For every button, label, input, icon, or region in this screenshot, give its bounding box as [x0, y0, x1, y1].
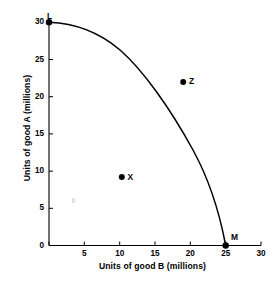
x-tick-label-20: 20	[181, 249, 199, 259]
point-marker-Z	[180, 79, 186, 85]
x-axis-title: Units of good B (millions)	[40, 261, 265, 271]
point-marker-X	[119, 174, 125, 180]
x-tick-label-30: 30	[252, 249, 270, 259]
ppf-chart-figure: 0 5 10 15 20 25 30 5 10 15 20 25 30 L Z …	[0, 0, 275, 285]
scan-artifact	[72, 198, 75, 203]
point-label-X: X	[128, 172, 134, 182]
y-axis-ticks	[49, 22, 53, 245]
ppf-curve	[49, 22, 226, 245]
x-tick-label-25: 25	[217, 249, 235, 259]
point-label-M: M	[231, 232, 238, 242]
x-tick-label-5: 5	[75, 249, 93, 259]
point-marker-M	[223, 242, 229, 248]
y-axis-title: Units of good A (millions)	[20, 8, 34, 248]
x-tick-label-15: 15	[146, 249, 164, 259]
point-label-L: L	[47, 11, 52, 21]
point-label-Z: Z	[189, 76, 194, 86]
x-tick-label-10: 10	[111, 249, 129, 259]
x-axis-ticks	[49, 242, 261, 246]
